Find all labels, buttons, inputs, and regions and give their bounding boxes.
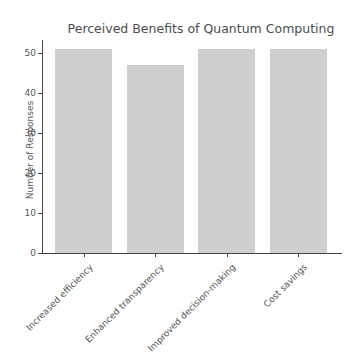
plot-area: 01020304050	[42, 40, 342, 254]
y-tick-label: 30	[16, 128, 36, 138]
x-tick	[155, 254, 156, 257]
y-tick	[38, 173, 42, 174]
x-tick	[298, 254, 299, 257]
y-axis-line	[42, 40, 43, 254]
bar	[198, 49, 255, 254]
x-tick-label: Cost savings	[262, 262, 309, 309]
y-tick	[38, 93, 42, 94]
y-tick	[38, 53, 42, 54]
bar	[270, 49, 327, 254]
y-tick-label: 0	[16, 248, 36, 258]
x-tick	[84, 254, 85, 257]
x-tick-label: Enhanced transparency	[84, 262, 167, 345]
x-tick-label: Increased efficiency	[24, 262, 95, 333]
bar	[127, 65, 184, 253]
y-tick-label: 50	[16, 48, 36, 58]
y-tick	[38, 213, 42, 214]
chart-title: Perceived Benefits of Quantum Computing	[0, 21, 360, 36]
y-tick-label: 40	[16, 88, 36, 98]
x-tick-label: Improved decision-making	[146, 262, 237, 353]
x-axis-line	[42, 253, 342, 254]
bar	[55, 49, 112, 254]
y-tick	[38, 133, 42, 134]
y-tick-label: 20	[16, 168, 36, 178]
y-axis-label: Number of Responses	[25, 90, 35, 210]
x-tick	[227, 254, 228, 257]
y-tick-label: 10	[16, 208, 36, 218]
y-tick	[38, 253, 42, 254]
